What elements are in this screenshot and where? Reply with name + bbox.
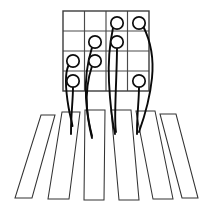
node-n2[interactable]: [133, 17, 145, 29]
node-n1[interactable]: [111, 17, 123, 29]
node-n8[interactable]: [133, 75, 145, 87]
diagram-canvas: [0, 0, 208, 210]
figure-root: [0, 0, 208, 210]
stripe-3: [84, 110, 105, 200]
node-n7[interactable]: [67, 75, 79, 87]
node-n3[interactable]: [89, 36, 101, 48]
node-n6[interactable]: [89, 55, 101, 67]
node-n5[interactable]: [67, 55, 79, 67]
node-n4[interactable]: [111, 36, 123, 48]
